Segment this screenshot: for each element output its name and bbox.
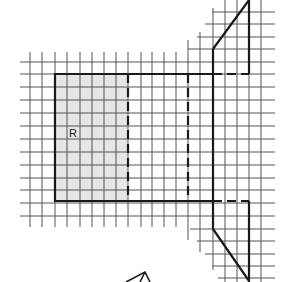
region-label-r: R <box>69 127 77 139</box>
grid-diagram <box>0 0 288 282</box>
partial-arrow-figure <box>126 272 150 282</box>
